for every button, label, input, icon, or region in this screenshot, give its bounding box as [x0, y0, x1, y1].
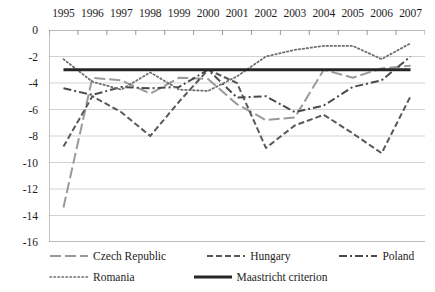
x-axis-tick-label: 2000 [194, 6, 223, 20]
y-axis-tick-label: -10 [23, 157, 38, 169]
x-axis-tick-label: 2007 [396, 6, 425, 20]
y-axis-tick-label: -2 [28, 51, 38, 63]
legend-swatch-hungary [206, 250, 246, 262]
legend-row-2: Romania Maastricht criterion [49, 267, 429, 287]
x-axis-ticks [49, 30, 425, 35]
legend-swatch-czech-republic [49, 250, 89, 262]
x-axis-tick-label: 2001 [223, 6, 252, 20]
x-axis-tick-labels: 1995199619971998199920002001200220032004… [49, 2, 425, 24]
x-axis-tick-label: 1995 [49, 6, 78, 20]
legend-item-czech-republic: Czech Republic [49, 250, 166, 263]
legend-label-maastricht-criterion: Maastricht criterion [237, 271, 328, 284]
x-axis-tick-label: 2006 [367, 6, 396, 20]
x-axis-tick-label: 1997 [107, 6, 136, 20]
x-axis-tick-label: 2004 [309, 6, 338, 20]
y-axis-tick-label: -6 [28, 104, 38, 116]
legend-label-czech-republic: Czech Republic [93, 250, 166, 263]
legend-item-hungary: Hungary [206, 250, 290, 263]
x-axis-tick-label: 1999 [165, 6, 194, 20]
legend-swatch-maastricht-criterion [193, 271, 233, 283]
y-axis-tick-label: -12 [23, 183, 38, 195]
gridlines [49, 30, 425, 242]
legend-label-poland: Poland [382, 250, 414, 263]
y-axis-tick-label: -14 [23, 210, 38, 222]
legend-row-1: Czech Republic Hungary Poland [49, 246, 429, 266]
legend-item-maastricht-criterion: Maastricht criterion [193, 271, 328, 284]
legend-item-romania: Romania [49, 271, 135, 284]
legend-swatch-poland [338, 250, 378, 262]
y-axis-tick-labels: 0-2-4-6-8-10-12-14-16 [0, 30, 44, 242]
series-line-hungary [63, 70, 410, 153]
line-chart-svg [49, 30, 425, 242]
legend-swatch-romania [49, 271, 89, 283]
series-line-romania [63, 43, 410, 91]
x-axis-tick-label: 2002 [251, 6, 280, 20]
x-axis-tick-label: 1996 [78, 6, 107, 20]
y-axis-tick-label: -16 [23, 236, 38, 248]
x-axis-tick-label: 2005 [338, 6, 367, 20]
y-axis-tick-label: 0 [32, 24, 38, 36]
y-axis-tick-label: -8 [28, 130, 38, 142]
legend-item-poland: Poland [338, 250, 414, 263]
series-lines [63, 43, 410, 207]
plot-area [49, 30, 425, 242]
legend-label-hungary: Hungary [250, 250, 290, 263]
x-axis-tick-label: 2003 [280, 6, 309, 20]
x-axis-tick-label: 1998 [136, 6, 165, 20]
y-axis-tick-label: -4 [28, 77, 38, 89]
chart-figure: 1995199619971998199920002001200220032004… [0, 0, 435, 292]
legend-label-romania: Romania [93, 271, 135, 284]
chart-legend: Czech Republic Hungary Poland [49, 246, 429, 290]
